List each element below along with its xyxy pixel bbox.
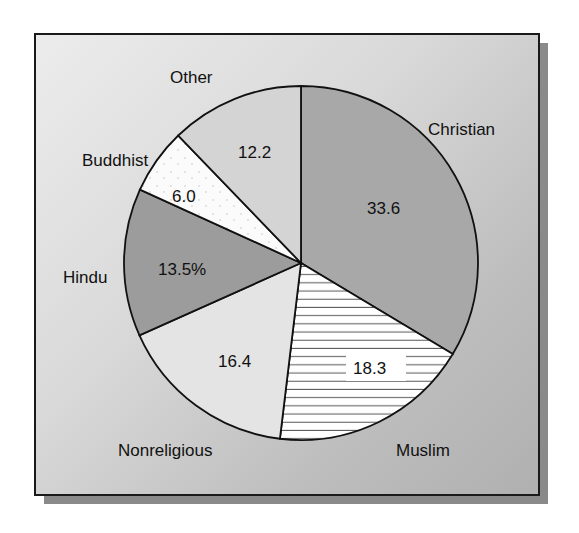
label-muslim: Muslim: [396, 441, 450, 460]
value-muslim: 18.3: [353, 359, 386, 378]
label-buddhist: Buddhist: [82, 151, 148, 170]
value-hindu: 13.5%: [158, 260, 206, 279]
value-buddhist: 6.0: [172, 187, 196, 206]
label-other: Other: [170, 68, 213, 87]
label-christian: Christian: [428, 120, 495, 139]
pie-chart: Christian Muslim Nonreligious Hindu Budd…: [0, 0, 579, 533]
label-nonreligious: Nonreligious: [118, 441, 213, 460]
label-hindu: Hindu: [63, 268, 107, 287]
value-christian: 33.6: [367, 199, 400, 218]
value-other: 12.2: [238, 143, 271, 162]
value-nonreligious: 16.4: [218, 352, 251, 371]
